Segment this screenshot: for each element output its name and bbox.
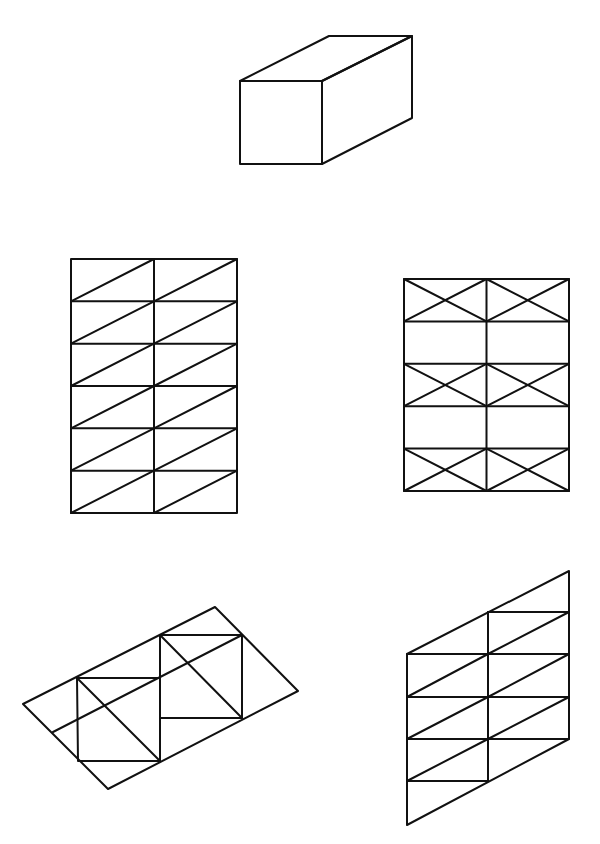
diagonal-brace <box>71 344 154 386</box>
diagonal-brace <box>71 259 154 301</box>
brace-line <box>160 635 242 718</box>
face-outline <box>240 36 412 81</box>
diagram-canvas <box>0 0 600 844</box>
fully-braced-grid-figure <box>71 259 237 513</box>
brace-line <box>407 697 488 739</box>
tilted-braced-frame-figure <box>23 607 298 789</box>
brace-line <box>488 612 569 654</box>
diagonal-brace <box>154 471 237 513</box>
face-outline <box>322 36 412 164</box>
brace-line <box>488 654 569 697</box>
diagonal-brace <box>71 428 154 470</box>
brace-line <box>407 739 488 781</box>
diagonal-brace <box>71 471 154 513</box>
brace-line <box>77 678 160 761</box>
diagonal-brace <box>154 386 237 428</box>
alternate-x-braced-grid-figure <box>404 279 569 491</box>
brace-line <box>488 697 569 739</box>
diagonal-brace <box>154 344 237 386</box>
diagonal-brace <box>71 301 154 343</box>
diagonal-brace <box>154 301 237 343</box>
diagonal-brace <box>154 428 237 470</box>
brace-line <box>407 654 488 697</box>
diagonal-brace <box>154 259 237 301</box>
diagram-drawing <box>0 0 600 844</box>
diagonal-brace <box>71 386 154 428</box>
rectangular-prism-figure <box>240 36 412 164</box>
sheared-braced-frame-figure <box>407 571 569 825</box>
face-outline <box>240 81 322 164</box>
